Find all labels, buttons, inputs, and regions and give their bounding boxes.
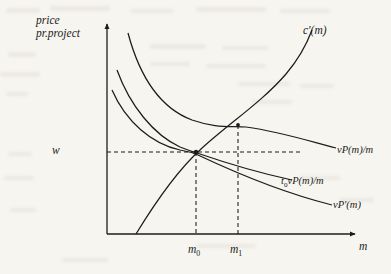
taxed-curve-label-rest: vP(m)/m bbox=[287, 175, 323, 186]
m1-tick-label: m1 bbox=[230, 243, 242, 258]
marginal-value-product-curve-label: vP'(m) bbox=[333, 199, 361, 211]
diagram-canvas bbox=[0, 0, 391, 274]
average-value-product-curve bbox=[128, 33, 336, 148]
average-value-product-curve-label: vP(m)/m bbox=[337, 144, 373, 156]
taxed-average-value-product-curve-label: t0vP(m)/m bbox=[281, 175, 324, 189]
equilibrium-point-m1 bbox=[236, 123, 240, 127]
m1-tick-label-subscript: 1 bbox=[238, 249, 242, 258]
m0-tick-label: m0 bbox=[188, 243, 200, 258]
figure-page: price pr.project w m0 m1 m c'(m) vP(m)/m… bbox=[0, 0, 391, 274]
marginal-cost-curve-label: c'(m) bbox=[303, 24, 327, 37]
y-axis-label-line1: price bbox=[36, 14, 80, 27]
m0-tick-label-subscript: 0 bbox=[196, 249, 200, 258]
y-axis-label: price pr.project bbox=[36, 14, 80, 40]
taxed-average-value-product-curve bbox=[117, 70, 292, 180]
x-axis-label: m bbox=[359, 240, 367, 253]
equilibrium-point-m0 bbox=[194, 150, 198, 154]
marginal-cost-curve bbox=[136, 30, 312, 234]
wage-axis-label: w bbox=[52, 144, 60, 157]
y-axis-label-line2: pr.project bbox=[36, 27, 80, 40]
